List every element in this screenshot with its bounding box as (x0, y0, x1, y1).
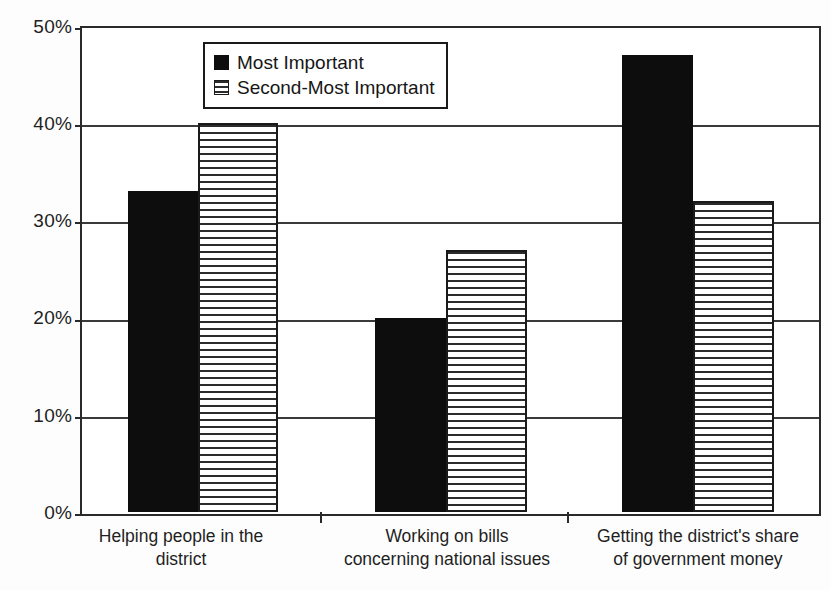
bar-bills-second-most-important (446, 250, 527, 512)
legend-item-most-important: Most Important (214, 50, 434, 75)
category-tick-2 (567, 512, 569, 523)
category-label-line-2: of government money (572, 548, 824, 571)
category-tick-1 (320, 512, 322, 523)
category-label-helping-people: Helping people in the district (56, 525, 306, 571)
legend-swatch-striped-icon (214, 80, 229, 95)
category-label-line-1: Working on bills (323, 525, 571, 548)
bar-district-share-second-most-important (693, 201, 774, 512)
legend-label-most-important: Most Important (237, 53, 364, 72)
legend: Most Important Second-Most Important (203, 42, 448, 109)
y-axis: 50% 40% 30% 20% 10% 0% (0, 26, 72, 512)
category-label-working-bills: Working on bills concerning national iss… (323, 525, 571, 571)
y-tick-label-40: 40% (8, 114, 72, 133)
category-label-line-1: Getting the district's share (572, 525, 824, 548)
bar-chart: 50% 40% 30% 20% 10% 0% Helping people in (0, 0, 831, 591)
y-tick-label-20: 20% (8, 308, 72, 327)
bar-helping-most-important (128, 191, 198, 512)
bar-district-share-most-important (622, 55, 693, 512)
y-tick-mark-0 (75, 514, 82, 516)
y-tick-label-50: 50% (8, 17, 72, 36)
legend-label-second-most-important: Second-Most Important (237, 78, 434, 97)
category-label-line-2: concerning national issues (323, 548, 571, 571)
legend-item-second-most-important: Second-Most Important (214, 75, 434, 100)
bars-layer (80, 26, 817, 512)
bar-bills-most-important (375, 318, 446, 512)
y-tick-label-0: 0% (8, 503, 72, 522)
bar-helping-second-most-important (198, 123, 278, 512)
category-label-line-2: district (56, 548, 306, 571)
y-tick-label-10: 10% (8, 406, 72, 425)
category-label-line-1: Helping people in the (56, 525, 306, 548)
y-tick-label-30: 30% (8, 211, 72, 230)
legend-swatch-solid-icon (214, 55, 229, 70)
category-label-district-share: Getting the district's share of governme… (572, 525, 824, 571)
